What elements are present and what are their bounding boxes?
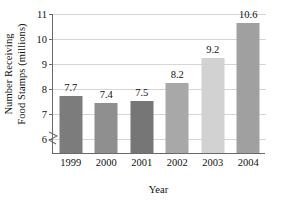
x-axis-category-label: 2000 bbox=[96, 157, 117, 168]
bar-value-label: 7.7 bbox=[64, 82, 77, 93]
bar[interactable] bbox=[59, 96, 82, 154]
bar-value-label: 8.2 bbox=[171, 69, 184, 80]
x-axis-category-label: 2004 bbox=[238, 157, 259, 168]
bar-group: 7.42000 bbox=[89, 13, 125, 153]
y-axis-title-line-1: Number Receiving bbox=[2, 8, 15, 140]
y-axis-tick-label: 9 bbox=[42, 59, 47, 70]
bar[interactable] bbox=[130, 101, 153, 154]
bar-value-label: 9.2 bbox=[206, 44, 219, 55]
bars-layer: 7.719997.420007.520018.220029.2200310.62… bbox=[53, 13, 266, 153]
bar-group: 10.62004 bbox=[231, 13, 267, 153]
x-axis-title: Year bbox=[52, 184, 265, 195]
y-axis-tick-label: 7 bbox=[42, 109, 47, 120]
bar-value-label: 7.4 bbox=[100, 89, 113, 100]
y-axis-tick-label: 8 bbox=[42, 84, 47, 95]
x-axis-category-label: 2001 bbox=[131, 157, 152, 168]
bar-group: 8.22002 bbox=[160, 13, 196, 153]
bar-group: 7.52001 bbox=[124, 13, 160, 153]
x-axis-category-label: 2003 bbox=[202, 157, 223, 168]
x-axis-category-label: 1999 bbox=[60, 157, 81, 168]
bar-group: 9.22003 bbox=[195, 13, 231, 153]
bar-group: 7.71999 bbox=[53, 13, 89, 153]
bar[interactable] bbox=[237, 23, 260, 153]
bar-value-label: 7.5 bbox=[135, 87, 148, 98]
y-axis-tick-label: 10 bbox=[37, 34, 48, 45]
bar[interactable] bbox=[95, 103, 118, 153]
bar-value-label: 10.6 bbox=[239, 9, 257, 20]
x-axis-category-label: 2002 bbox=[167, 157, 188, 168]
y-axis-title-line-2: Food Stamps (millions) bbox=[15, 8, 28, 140]
plot-area: 67891011 7.719997.420007.520018.220029.2… bbox=[52, 14, 265, 154]
y-axis-title: Number Receiving Food Stamps (millions) bbox=[2, 8, 36, 140]
y-axis-tick-label: 11 bbox=[37, 9, 47, 20]
bar[interactable] bbox=[201, 58, 224, 153]
bar-chart-figure: Number Receiving Food Stamps (millions) … bbox=[0, 0, 281, 204]
y-axis-tick-label: 6 bbox=[42, 134, 47, 145]
bar[interactable] bbox=[166, 83, 189, 153]
